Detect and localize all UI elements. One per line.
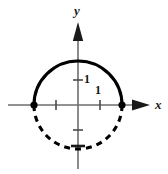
y-axis-label: y — [74, 4, 80, 17]
y-tick-label-one: 1 — [84, 73, 90, 85]
x-tick-label-one: 1 — [95, 84, 101, 96]
left-endpoint-dot — [30, 101, 37, 108]
unit-circle-figure: y x 1 1 — [0, 0, 168, 174]
x-axis-label: x — [155, 98, 162, 111]
arrow-up-icon — [73, 22, 83, 41]
figure-canvas — [0, 0, 168, 174]
right-endpoint-dot — [118, 101, 125, 108]
arrow-right-icon — [132, 100, 150, 111]
